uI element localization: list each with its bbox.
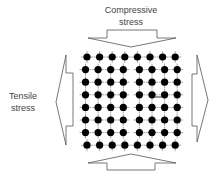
atom <box>136 104 143 111</box>
atom <box>95 129 102 136</box>
atom <box>82 66 89 73</box>
atom <box>174 104 181 111</box>
atom <box>159 53 166 60</box>
right-tensile-arrow-icon <box>192 55 208 142</box>
atom <box>146 142 153 149</box>
atom <box>174 91 181 98</box>
atom <box>174 79 181 86</box>
atom <box>121 53 128 60</box>
atom <box>174 116 181 123</box>
atom <box>161 79 168 86</box>
atom <box>82 91 89 98</box>
top-compressive-arrow-icon <box>88 30 176 47</box>
atom <box>95 104 102 111</box>
atom <box>120 79 127 86</box>
atom <box>107 116 114 123</box>
atom <box>96 142 103 149</box>
atom <box>174 66 181 73</box>
atom <box>120 116 127 123</box>
atom <box>136 79 143 86</box>
atom <box>136 129 143 136</box>
compressive-label-line1: Compressive <box>105 5 158 15</box>
atom <box>82 104 89 111</box>
atom <box>109 53 116 60</box>
tensile-label-line2: stress <box>11 103 36 113</box>
atom <box>148 104 155 111</box>
stress-lattice-diagram: Compressive stress Tensile stress <box>0 0 219 180</box>
atom <box>172 53 179 60</box>
atom <box>161 66 168 73</box>
bottom-compressive-arrow-icon <box>88 154 176 170</box>
atom <box>148 66 155 73</box>
atom <box>148 79 155 86</box>
atom <box>82 79 89 86</box>
atom <box>121 142 128 149</box>
atom <box>120 91 127 98</box>
atom <box>120 66 127 73</box>
atom <box>120 104 127 111</box>
atom <box>95 91 102 98</box>
atom <box>107 129 114 136</box>
atom <box>148 116 155 123</box>
atom <box>159 142 166 149</box>
compressive-label-line2: stress <box>119 17 144 27</box>
atom <box>96 53 103 60</box>
atom <box>107 66 114 73</box>
atom <box>95 79 102 86</box>
atom <box>161 104 168 111</box>
atom <box>161 129 168 136</box>
atom <box>161 116 168 123</box>
atom <box>136 116 143 123</box>
atom <box>120 129 127 136</box>
atom <box>83 53 90 60</box>
atom <box>109 142 116 149</box>
atom <box>107 79 114 86</box>
atom <box>172 142 179 149</box>
atom <box>136 91 143 98</box>
atom <box>134 53 141 60</box>
atom <box>134 142 141 149</box>
atom <box>82 116 89 123</box>
atom <box>148 129 155 136</box>
atom <box>107 91 114 98</box>
atom <box>146 53 153 60</box>
atom <box>95 66 102 73</box>
tensile-label-line1: Tensile <box>9 91 37 101</box>
atom <box>95 116 102 123</box>
atom <box>107 104 114 111</box>
atom <box>136 66 143 73</box>
left-tensile-arrow-icon <box>56 55 73 145</box>
atom <box>161 91 168 98</box>
atom <box>174 129 181 136</box>
atom <box>83 142 90 149</box>
atomic-lattice <box>80 51 184 151</box>
atom <box>82 129 89 136</box>
